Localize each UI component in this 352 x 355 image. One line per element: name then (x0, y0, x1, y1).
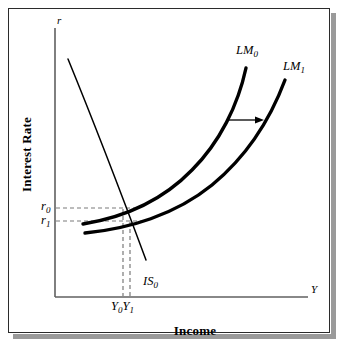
panel-drop-shadow-right (331, 13, 336, 338)
curve-label-is0-subscript: 0 (153, 280, 158, 290)
curve-label-lm1: LM1 (283, 60, 305, 75)
curve-label-lm0-text: LM (236, 43, 253, 57)
curve-label-lm1-subscript: 1 (300, 65, 305, 75)
curve-label-lm1-text: LM (283, 59, 300, 73)
curve-label-lm0: LM0 (236, 44, 258, 59)
curve-label-is0-text: IS (143, 274, 153, 288)
y-tick-label-r1: r1 (41, 214, 50, 229)
figure-panel-border (8, 8, 330, 333)
y-axis-title: Interest Rate (20, 105, 33, 205)
x-tick-label-group: Y0Y1 (111, 300, 134, 315)
curve-label-lm0-subscript: 0 (253, 49, 258, 59)
curve-label-is0: IS0 (143, 275, 158, 290)
x-axis-variable-label: Y (311, 284, 317, 295)
figure-root: Interest Rate Income r Y LM0 LM1 IS0 r0 … (0, 0, 352, 355)
y-tick-label-r1-subscript: 1 (46, 219, 51, 229)
x-tick-label-y0-text: Y (111, 299, 118, 313)
y-axis-variable-label: r (57, 15, 61, 26)
x-tick-label-y1-subscript: 1 (129, 305, 134, 315)
x-axis-title: Income (140, 324, 250, 337)
